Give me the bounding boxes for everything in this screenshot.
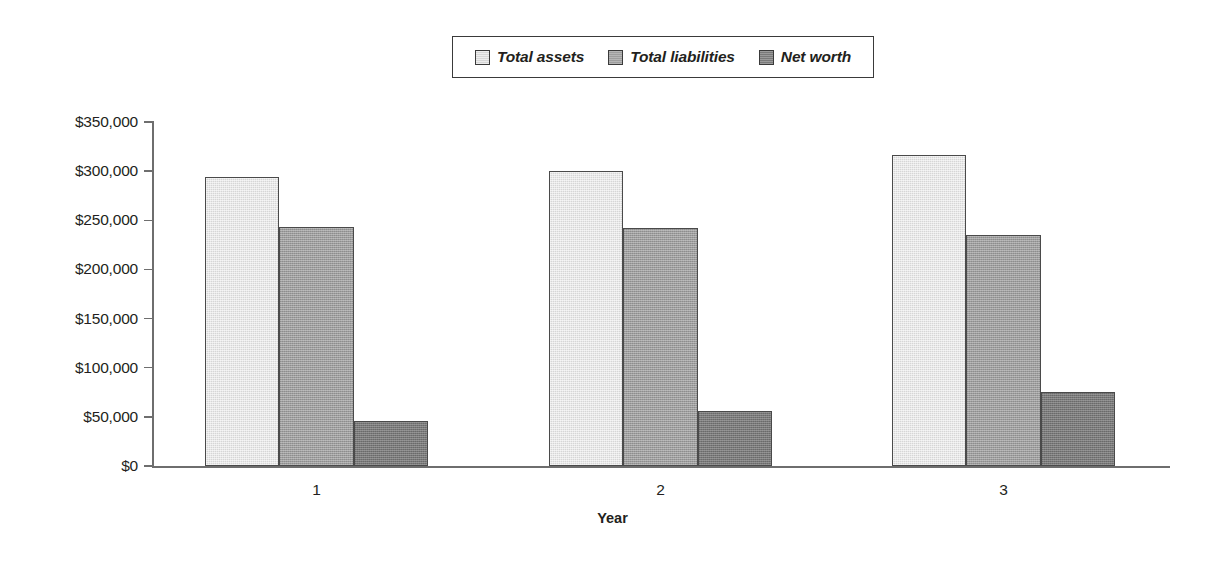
y-tick-label: $150,000 xyxy=(42,310,138,328)
y-axis-line xyxy=(152,121,154,467)
bar-net-worth-year-1 xyxy=(354,421,428,466)
y-tick-mark xyxy=(144,465,153,467)
y-tick-label: $0 xyxy=(42,457,138,475)
bar-total-liabilities-year-2 xyxy=(623,228,697,466)
y-tick-mark xyxy=(144,318,153,320)
y-tick-label: $100,000 xyxy=(42,359,138,377)
bar-net-worth-year-3 xyxy=(1041,392,1115,466)
bar-total-liabilities-year-1 xyxy=(279,227,353,466)
y-tick-label: $350,000 xyxy=(42,113,138,131)
y-tick-mark xyxy=(144,121,153,123)
x-axis-title: Year xyxy=(0,510,1225,526)
y-tick-label: $200,000 xyxy=(42,260,138,278)
y-tick-label: $50,000 xyxy=(42,408,138,426)
bar-total-liabilities-year-3 xyxy=(966,235,1040,466)
bar-net-worth-year-2 xyxy=(698,411,772,466)
bar-chart: Total assets Total liabilities Net worth… xyxy=(0,0,1225,568)
x-axis-line xyxy=(152,466,1170,468)
x-category-label-3: 3 xyxy=(943,481,1063,499)
y-tick-label: $300,000 xyxy=(42,162,138,180)
x-category-label-2: 2 xyxy=(600,481,720,499)
y-tick-mark xyxy=(144,220,153,222)
y-tick-mark xyxy=(144,416,153,418)
y-tick-mark xyxy=(144,367,153,369)
bar-total-assets-year-2 xyxy=(549,171,623,466)
bar-total-assets-year-1 xyxy=(205,177,279,466)
plot-area: $0$50,000$100,000$150,000$200,000$250,00… xyxy=(0,0,1225,568)
bar-total-assets-year-3 xyxy=(892,155,966,466)
x-category-label-1: 1 xyxy=(256,481,376,499)
y-tick-label: $250,000 xyxy=(42,211,138,229)
y-tick-mark xyxy=(144,170,153,172)
y-tick-mark xyxy=(144,269,153,271)
